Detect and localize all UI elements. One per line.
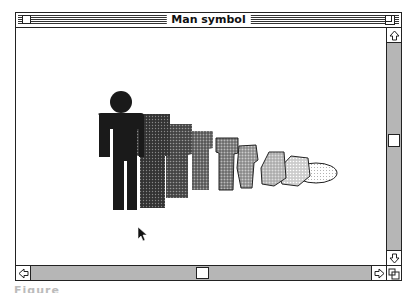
title-stripes-right [241,15,399,24]
close-box[interactable] [22,15,31,24]
resize-icon [387,267,401,281]
vertical-scrollbar[interactable] [386,28,401,265]
grow-box[interactable] [386,265,401,280]
man-symbol-figures [16,28,386,265]
scroll-left-button[interactable] [16,266,31,280]
arrow-left-icon [18,268,29,279]
man-symbol-window: Man symbol [15,12,402,281]
window-title: Man symbol [166,13,250,27]
scroll-right-button[interactable] [371,266,386,280]
figure-caption: Figure [14,284,60,293]
scroll-down-button[interactable] [387,250,401,265]
scroll-up-button[interactable] [387,28,401,43]
title-stripes-left [18,15,176,24]
vertical-scroll-thumb[interactable] [388,134,400,147]
zoom-box[interactable] [385,15,395,25]
arrow-up-icon [389,30,400,41]
canvas-area [16,28,386,265]
horizontal-scrollbar[interactable] [16,265,386,280]
arrow-right-icon [374,268,385,279]
arrow-down-icon [389,253,400,264]
horizontal-scroll-thumb[interactable] [196,267,209,279]
mouse-pointer-icon [137,226,147,242]
title-bar[interactable]: Man symbol [16,13,401,28]
